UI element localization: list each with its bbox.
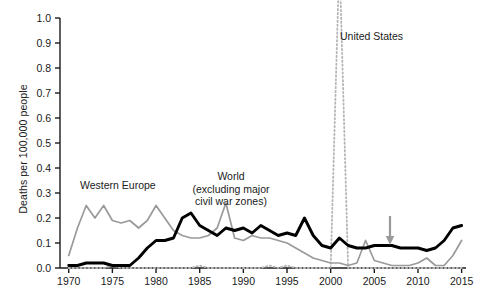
- x-tick-label: 1970: [57, 275, 81, 287]
- y-tick-label: 0.8: [36, 62, 51, 74]
- y-tick-label: 0.7: [36, 87, 51, 99]
- x-tick-label: 1975: [101, 275, 125, 287]
- x-tick-label: 2000: [319, 275, 343, 287]
- annotation-arrow-2007: [386, 216, 394, 245]
- y-tick-label: 0.2: [36, 212, 51, 224]
- y-tick-label: 0.1: [36, 237, 51, 249]
- x-tick-label: 1995: [275, 275, 299, 287]
- x-tick-label: 1985: [188, 275, 212, 287]
- series-line-western: [69, 203, 462, 266]
- x-tick-label: 1980: [144, 275, 168, 287]
- terrorism-deaths-line-chart: Deaths per 100,000 people 0.00.10.20.30.…: [0, 0, 485, 306]
- x-tick-label: 2005: [363, 275, 387, 287]
- y-axis: 0.00.10.20.30.40.50.60.70.80.91.0: [36, 12, 60, 274]
- series-label-world-line3: civil war zones): [176, 195, 286, 208]
- x-tick-label: 1990: [232, 275, 256, 287]
- y-tick-label: 0.3: [36, 187, 51, 199]
- x-tick-label: 2015: [450, 275, 474, 287]
- series-label-united-states: United States: [340, 30, 403, 42]
- y-tick-label: 0.6: [36, 112, 51, 124]
- series-label-world-line2: (excluding major: [176, 183, 286, 196]
- y-tick-label: 0.0: [36, 262, 51, 274]
- series-label-world: World (excluding major civil war zones): [176, 170, 286, 208]
- series-label-world-line1: World: [176, 170, 286, 183]
- x-axis: 1970197519801985199019952000200520102015: [57, 268, 473, 287]
- y-tick-label: 0.5: [36, 137, 51, 149]
- y-tick-label: 0.9: [36, 37, 51, 49]
- x-tick-label: 2010: [406, 275, 430, 287]
- series-label-western-europe: Western Europe: [80, 179, 156, 191]
- y-tick-label: 0.4: [36, 162, 51, 174]
- chart-canvas: 0.00.10.20.30.40.50.60.70.80.91.0 197019…: [0, 0, 485, 306]
- y-tick-label: 1.0: [36, 12, 51, 24]
